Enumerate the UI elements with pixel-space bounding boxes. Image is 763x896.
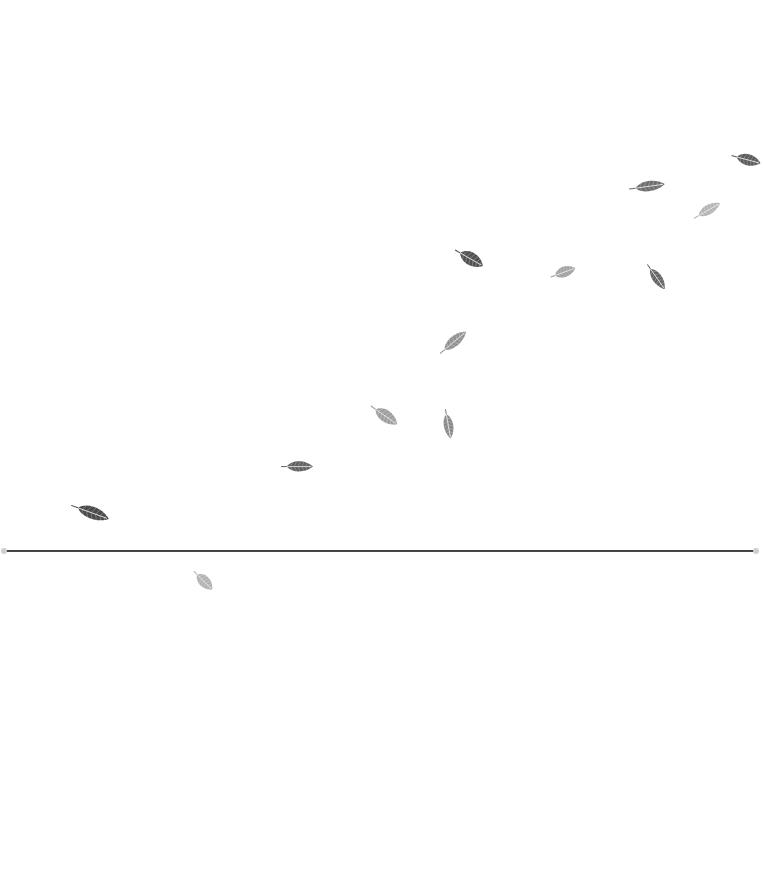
feather-icon	[67, 495, 112, 530]
feather-icon	[364, 397, 403, 434]
feather-icon	[690, 196, 725, 226]
feather-icon	[628, 175, 666, 199]
horizon-right-endcap	[753, 548, 759, 554]
feather-icon	[548, 260, 579, 287]
feather-icon	[437, 408, 460, 441]
horizon-left-endcap	[1, 548, 7, 554]
feather-icon	[640, 260, 672, 295]
feather-icon	[449, 240, 489, 277]
feather-icon	[434, 325, 472, 362]
feather-icon	[729, 145, 763, 173]
feather-icon	[281, 457, 313, 476]
horizon-line	[5, 550, 755, 552]
feather-icon	[186, 563, 219, 596]
